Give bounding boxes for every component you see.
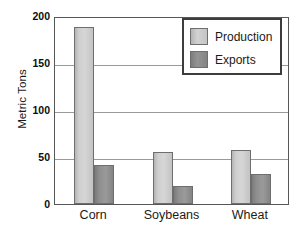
legend-label-production: Production xyxy=(215,30,272,44)
y-tick-label: 50 xyxy=(24,152,50,163)
x-axis-tick-labels: CornSoybeansWheat xyxy=(54,208,289,230)
legend-swatch-exports-icon xyxy=(190,51,208,68)
bar-wheat-production[interactable] xyxy=(231,150,251,204)
y-tick-label: 0 xyxy=(24,199,50,210)
legend-label-exports: Exports xyxy=(215,53,256,67)
y-tick-label: 150 xyxy=(24,58,50,69)
chart-legend: Production Exports xyxy=(182,18,282,75)
legend-item-exports[interactable]: Exports xyxy=(190,48,280,71)
bar-corn-exports[interactable] xyxy=(94,165,114,204)
x-tick-label-wheat: Wheat xyxy=(211,208,289,222)
legend-item-production[interactable]: Production xyxy=(190,25,280,48)
bar-chart: Metric Tons 050100150200 CornSoybeansWhe… xyxy=(0,0,301,231)
x-tick-label-corn: Corn xyxy=(54,208,132,222)
x-tick-label-soybeans: Soybeans xyxy=(132,208,210,222)
y-tick-label: 200 xyxy=(24,11,50,22)
legend-swatch-production-icon xyxy=(190,28,208,45)
y-tick-label: 100 xyxy=(24,105,50,116)
y-axis-tick-labels: 050100150200 xyxy=(22,0,50,231)
bar-soybeans-exports[interactable] xyxy=(173,186,193,204)
bar-corn-production[interactable] xyxy=(74,27,94,204)
bar-wheat-exports[interactable] xyxy=(251,174,271,204)
bar-soybeans-production[interactable] xyxy=(153,152,173,204)
